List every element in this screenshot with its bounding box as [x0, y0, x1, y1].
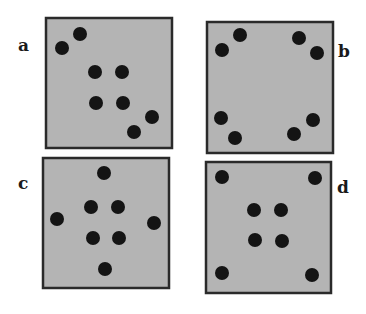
dot-b-1 — [233, 28, 247, 42]
panel-b-label: b — [338, 41, 350, 61]
panel-a: a — [18, 18, 172, 148]
dot-d-8 — [305, 268, 319, 282]
panel-b-box — [207, 22, 333, 153]
dot-b-3 — [292, 31, 306, 45]
dot-b-6 — [228, 131, 242, 145]
dot-d-7 — [215, 266, 229, 280]
dot-c-8 — [98, 262, 112, 276]
panel-c-label: c — [18, 173, 28, 193]
dot-b-4 — [310, 46, 324, 60]
panel-c: c — [18, 158, 169, 288]
dot-c-2 — [84, 200, 98, 214]
dot-a-8 — [127, 125, 141, 139]
dot-d-1 — [215, 170, 229, 184]
dot-a-6 — [116, 96, 130, 110]
dot-pattern-figure: a b c d — [0, 0, 366, 314]
dot-c-1 — [97, 166, 111, 180]
dot-a-4 — [115, 65, 129, 79]
panel-d: d — [206, 162, 349, 293]
dot-d-3 — [247, 203, 261, 217]
dot-d-6 — [275, 234, 289, 248]
dot-a-1 — [73, 27, 87, 41]
dot-c-7 — [112, 231, 126, 245]
dot-d-2 — [308, 171, 322, 185]
dot-b-8 — [287, 127, 301, 141]
dot-a-5 — [89, 96, 103, 110]
dot-b-5 — [214, 111, 228, 125]
dot-a-2 — [55, 41, 69, 55]
dot-d-4 — [274, 203, 288, 217]
dot-c-4 — [50, 212, 64, 226]
dot-d-5 — [248, 233, 262, 247]
dot-c-5 — [147, 216, 161, 230]
dot-c-6 — [86, 231, 100, 245]
dot-a-3 — [88, 65, 102, 79]
dot-b-2 — [215, 43, 229, 57]
panel-d-label: d — [337, 177, 349, 197]
dot-a-7 — [145, 110, 159, 124]
dot-c-3 — [111, 200, 125, 214]
panel-a-label: a — [18, 35, 29, 55]
panel-a-box — [46, 18, 172, 148]
dot-b-7 — [306, 113, 320, 127]
panel-b: b — [207, 22, 350, 153]
